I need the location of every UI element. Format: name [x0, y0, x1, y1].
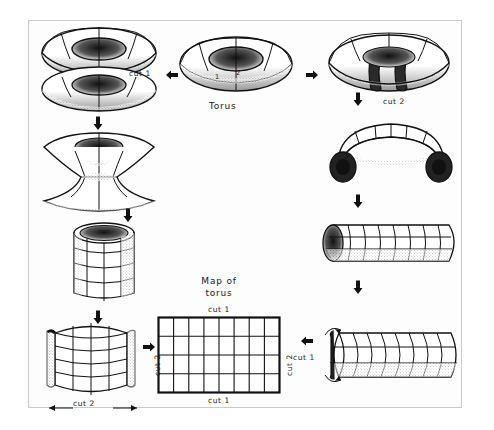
- arrow-right-icon-1: [304, 67, 320, 83]
- label-cut2-torus: cut 2: [383, 97, 405, 106]
- figure-bent-tube: [321, 119, 461, 185]
- arrow-left-icon: [164, 67, 180, 83]
- figure-cylinder-split: [43, 321, 139, 399]
- arrow-down-icon-2: [121, 207, 135, 223]
- figure-torus-cut2: [327, 31, 451, 103]
- torus-region-1-label: 1: [215, 73, 219, 81]
- label-cut1-cylinder-split: cut 1: [293, 353, 315, 362]
- arrow-down-icon-6: [351, 279, 365, 295]
- map-edge-left-label: cut 2: [153, 354, 162, 376]
- map-grid: [157, 316, 281, 394]
- arrow-down-icon-4: [351, 91, 365, 107]
- map-edge-top-label: cut 1: [183, 305, 255, 314]
- arrow-left-icon-2: [299, 333, 315, 349]
- figure-cylinder-split-horizontal: [319, 321, 463, 391]
- figure-torus: [177, 33, 295, 95]
- label-cut2-cylinder-split: cut 2: [73, 399, 95, 408]
- label-cut1-torus: cut 1: [129, 69, 151, 78]
- arrow-down-icon-1: [91, 115, 105, 131]
- arrow-down-icon-5: [351, 193, 365, 209]
- diagram-frame: 1 2 Torus cut 1: [28, 20, 462, 408]
- caption-map-line2: torus: [183, 288, 255, 299]
- map-edge-bottom-label: cut 1: [183, 396, 255, 405]
- figure-hyperboloid: [41, 131, 157, 211]
- arrow-right-icon-2: [141, 339, 157, 355]
- figure-cylinder-vertical: [69, 223, 139, 305]
- torus-region-2-label: 2: [236, 69, 240, 77]
- map-edge-right-label: cut 2: [285, 354, 294, 376]
- caption-torus: Torus: [209, 101, 237, 112]
- figure-cylinder-horizontal: [321, 217, 463, 271]
- caption-map-line1: Map of: [183, 276, 255, 287]
